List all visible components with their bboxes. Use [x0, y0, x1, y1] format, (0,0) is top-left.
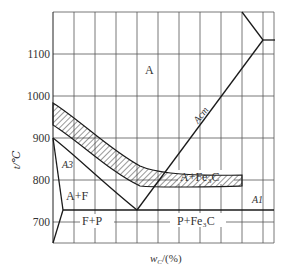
y-tick-900: 900: [33, 132, 51, 144]
y-axis-label: t/℃: [10, 150, 22, 169]
ferrite-boundary: [53, 138, 63, 210]
y-tick-800: 800: [33, 174, 51, 186]
y-tick-700: 700: [33, 216, 51, 228]
region-austenite-ferrite: A+F: [66, 189, 88, 203]
ferrite-solvus: [53, 210, 63, 243]
region-austenite: A: [145, 63, 154, 77]
region-ferrite-pearlite: F+P: [82, 214, 102, 228]
phase-diagram: 1100 1000 900 800 700 t/℃ wC/(%) A A+F A…: [0, 0, 285, 269]
y-tick-1100: 1100: [27, 48, 50, 60]
x-axis-label: wC/(%): [150, 252, 182, 266]
region-austenite-cementite: A+Fe₃C: [180, 170, 220, 184]
label-a3: A3: [61, 159, 73, 170]
region-pearlite-cementite: P+Fe₃C: [177, 214, 215, 228]
label-a1: A1: [251, 194, 263, 205]
y-axis: 1100 1000 900 800 700 t/℃: [10, 48, 50, 228]
upper-boundary: [242, 12, 263, 40]
y-tick-1000: 1000: [27, 90, 50, 102]
